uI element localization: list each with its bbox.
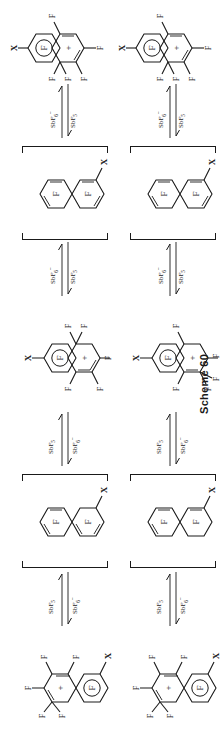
figure-caption: Scheme 60: [198, 354, 210, 414]
atom-label-fluorine: F: [48, 77, 57, 81]
reagent-label-forward: SbF6–: [47, 268, 59, 284]
atom-label-fluorine: F: [104, 356, 113, 360]
atom-label-fluorine: F: [132, 686, 141, 690]
reagent-label-reverse: SbF5: [69, 270, 78, 284]
atom-label-fluorine: F: [172, 324, 181, 328]
structure-fluorinated-arenium-cation-F: F + F F F F F X: [124, 0, 220, 86]
atom-label-fluorine: F: [48, 14, 57, 18]
substituent-label-x: X: [131, 355, 141, 362]
atom-label-fluorine: F: [96, 387, 105, 391]
atom-label-fluorine: F: [172, 77, 181, 81]
equilibrium-arrow: SbF5 SbF6–: [52, 408, 78, 470]
reagent-label-forward: SbF6–: [155, 268, 167, 284]
atom-label-fluorine: F: [51, 519, 61, 524]
atom-label-fluorine: F: [159, 519, 169, 524]
atom-label-fluorine: F: [156, 77, 165, 81]
atom-label-fluorine: F: [166, 714, 175, 718]
atom-label-fluorine: F: [159, 191, 169, 196]
atom-label-fluorine: F: [58, 714, 67, 718]
charge-label-plus: +: [187, 355, 197, 360]
reagent-label-reverse: SbF6–: [177, 438, 189, 454]
atom-label-fluorine: F: [212, 354, 221, 358]
substituent-label-x: X: [99, 487, 109, 494]
substituent-label-x: X: [23, 355, 33, 362]
atom-label-fluorine: F: [163, 355, 173, 360]
reagent-label-forward: SbF5: [155, 600, 164, 614]
atom-label-fluorine: F: [96, 46, 105, 50]
atom-label-fluorine: F: [188, 77, 197, 81]
atom-label-fluorine: F: [80, 77, 89, 81]
structure-fluoronaphthalene-neutral-A: F F X: [22, 474, 106, 564]
structure-fluoronaphthalene-neutral-D: F F X: [130, 146, 214, 236]
atom-label-fluorine: F: [191, 519, 201, 524]
reagent-label-reverse: SbF6–: [69, 438, 81, 454]
atom-label-fluorine: F: [51, 191, 61, 196]
substituent-label-x: X: [103, 653, 113, 660]
substituent-label-x: X: [99, 159, 109, 166]
structure-fluorinated-arenium-cation-C: F + F F F F F X: [16, 0, 112, 86]
reaction-scheme: F F F F F F + X SbF5 SbF6–: [0, 0, 222, 754]
atom-label-fluorine: F: [83, 519, 93, 524]
atom-label-fluorine: F: [212, 377, 221, 381]
atom-label-fluorine: F: [38, 714, 47, 718]
equilibrium-arrow: SbF6– SbF5: [160, 238, 186, 300]
structure-fluorinated-arenium-cation-D: F F F F F F + X: [126, 632, 218, 736]
reagent-label-forward: SbF6–: [47, 112, 59, 128]
atom-label-fluorine: F: [83, 191, 93, 196]
equilibrium-arrow: SbF6– SbF5: [160, 80, 186, 142]
atom-label-fluorine: F: [40, 655, 49, 659]
equilibrium-arrow: SbF5 SbF6–: [160, 568, 186, 630]
equilibrium-arrow: SbF5 SbF6–: [52, 568, 78, 630]
substituent-label-x: X: [9, 45, 19, 52]
scheme-canvas: F F F F F F + X SbF5 SbF6–: [0, 0, 222, 754]
substituent-label-x: X: [207, 159, 217, 166]
reagent-label-forward: SbF5: [155, 440, 164, 454]
atom-label-fluorine: F: [55, 355, 65, 360]
charge-label-plus: +: [163, 685, 173, 690]
equilibrium-arrow: SbF6– SbF5: [52, 238, 78, 300]
structure-fluoronaphthalene-neutral-C: F F X: [130, 474, 214, 564]
atom-label-fluorine: F: [156, 14, 165, 18]
reagent-label-reverse: SbF6–: [69, 598, 81, 614]
atom-label-fluorine: F: [180, 655, 189, 659]
atom-label-fluorine: F: [39, 45, 49, 50]
reagent-label-reverse: SbF5: [69, 114, 78, 128]
structure-fluorinated-arenium-cation-B: F + F F F F F X: [18, 302, 110, 406]
atom-label-fluorine: F: [64, 324, 73, 328]
substituent-label-x: X: [207, 487, 217, 494]
reagent-label-forward: SbF5: [47, 600, 56, 614]
reagent-label-reverse: SbF6–: [177, 598, 189, 614]
atom-label-fluorine: F: [172, 387, 181, 391]
atom-label-fluorine: F: [64, 387, 73, 391]
charge-label-plus: +: [171, 45, 181, 50]
reagent-label-forward: SbF6–: [155, 112, 167, 128]
atom-label-fluorine: F: [204, 46, 213, 50]
atom-label-fluorine: F: [191, 191, 201, 196]
substituent-label-x: X: [211, 653, 221, 660]
substituent-label-x: X: [117, 45, 127, 52]
equilibrium-arrow: SbF5 SbF6–: [160, 408, 186, 470]
atom-label-fluorine: F: [64, 77, 73, 81]
atom-label-fluorine: F: [147, 45, 157, 50]
atom-label-fluorine: F: [195, 685, 205, 690]
equilibrium-arrow: SbF6– SbF5: [52, 80, 78, 142]
atom-label-fluorine: F: [24, 686, 33, 690]
charge-label-plus: +: [55, 685, 65, 690]
reagent-label-reverse: SbF5: [177, 270, 186, 284]
atom-label-fluorine: F: [148, 655, 157, 659]
structure-fluorinated-arenium-cation-A: F F F F F F + X: [18, 632, 110, 736]
charge-label-plus: +: [79, 355, 89, 360]
atom-label-fluorine: F: [146, 714, 155, 718]
reagent-label-forward: SbF5: [47, 440, 56, 454]
charge-label-plus: +: [63, 45, 73, 50]
atom-label-fluorine: F: [87, 685, 97, 690]
atom-label-fluorine: F: [80, 324, 89, 328]
reagent-label-reverse: SbF5: [177, 114, 186, 128]
atom-label-fluorine: F: [72, 655, 81, 659]
structure-fluoronaphthalene-neutral-B: F F X: [22, 146, 106, 236]
